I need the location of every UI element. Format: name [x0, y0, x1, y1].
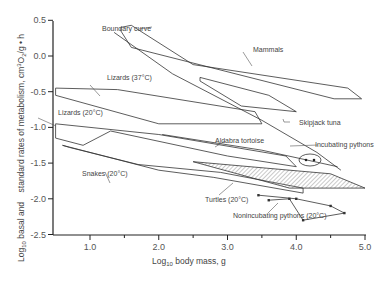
metabolism-chart: 0.50.0-0.5-1.0-1.5-2.0-2.5 1.02.03.04.05… [0, 0, 386, 286]
incubating-python-point [313, 159, 316, 162]
y-axis-title: Log10 basal and standard rates of metabo… [16, 34, 27, 262]
incubating-pythons-ellipse [299, 154, 321, 166]
label-lizards-20: Lizards (20°C) [58, 109, 103, 117]
python-data-point [302, 219, 304, 221]
y-tick-label: -1.5 [30, 158, 46, 168]
y-tick-label: 0.0 [33, 51, 46, 61]
python-data-point [268, 199, 270, 201]
python-data-point [295, 198, 297, 200]
series-skipjack-tuna [200, 77, 296, 111]
x-ticks: 1.02.03.04.05.0 [84, 235, 372, 252]
y-tick-label: -2.0 [30, 194, 46, 204]
series-lizards-37-c [56, 88, 262, 124]
series-lizards-20-c [56, 124, 297, 167]
series-boundary-curve [114, 32, 341, 170]
y-ticks: 0.50.0-0.5-1.0-1.5-2.0-2.5 [30, 15, 53, 239]
x-tick-label: 4.0 [290, 242, 303, 252]
x-axis-title: Log10 body mass, g [152, 256, 226, 267]
y-tick-label: -0.5 [30, 87, 46, 97]
y-tick-label: -1.0 [30, 122, 46, 132]
label-incubating-pythons: Incubating pythons [315, 141, 374, 149]
python-data-point [343, 212, 345, 214]
python-data-point [329, 205, 331, 207]
label-aldabra-tortoise: Aldabra tortoise [215, 137, 264, 144]
y-tick-label: 0.5 [33, 15, 46, 25]
label-lizards-37: Lizards (37°C) [107, 74, 152, 82]
label-nonincubating-pythons: Nonincubating pythons (20°C) [233, 212, 326, 220]
incubating-python-point [305, 159, 308, 162]
label-mammals: Mammals [253, 46, 284, 53]
series-turtles-20-c [193, 162, 365, 188]
x-tick-label: 5.0 [359, 242, 372, 252]
label-boundary-curve: Boundary curve [102, 25, 151, 33]
x-tick-label: 1.0 [84, 242, 97, 252]
python-data-point [288, 198, 290, 200]
python-data-point [257, 194, 259, 196]
x-tick-label: 3.0 [221, 242, 234, 252]
label-turtles-20: Turtles (20°C) [205, 196, 248, 204]
x-tick-label: 2.0 [152, 242, 165, 252]
y-tick-label: -2.5 [30, 230, 46, 240]
label-snakes-20: Snakes (20°C) [82, 170, 128, 178]
label-skipjack-tuna: Skipjack tuna [299, 119, 341, 127]
